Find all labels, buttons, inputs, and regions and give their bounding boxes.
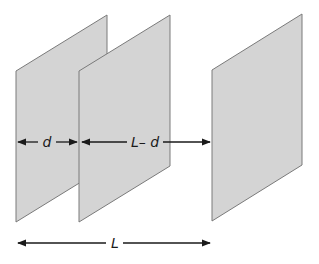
label-l: L	[111, 235, 119, 251]
label-l-minus-d: L– d	[131, 134, 159, 150]
dimension-l: L	[18, 235, 210, 251]
plates-diagram: d L– d L	[0, 0, 319, 264]
label-d: d	[43, 134, 52, 150]
plate-3	[212, 14, 302, 221]
